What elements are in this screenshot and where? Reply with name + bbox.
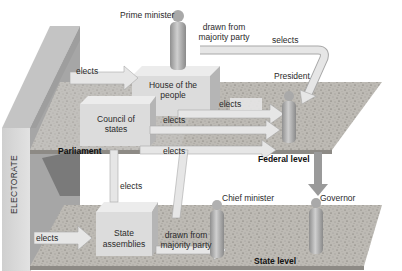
- council-of-states-line2: states: [84, 124, 148, 134]
- state-elects-council-label: elects: [120, 181, 142, 191]
- pm-drawn-from-label-line1: drawn from: [194, 22, 254, 32]
- state-level-label: State level: [254, 256, 296, 266]
- parliament-label: Parliament: [58, 146, 101, 156]
- prime-minister-label: Prime minister: [120, 10, 174, 20]
- cm-drawn-from-label-line1: drawn from: [156, 230, 216, 240]
- president-label: President: [274, 71, 310, 81]
- selects-label: selects: [272, 35, 298, 45]
- parliament-elects-president-label: elects: [163, 146, 185, 156]
- house-elects-president-label: elects: [219, 99, 241, 109]
- chief-minister-label: Chief minister: [222, 193, 274, 203]
- electorate-label: ELECTORATE: [9, 200, 109, 214]
- arrow-state-to-council: [110, 150, 118, 202]
- state-assemblies-line1: State: [96, 228, 152, 238]
- federal-level-label: Federal level: [258, 154, 310, 164]
- governor-label: Governor: [320, 193, 355, 203]
- electorate-elects-house-label: elects: [76, 66, 98, 76]
- council-of-states-line1: Council of: [84, 114, 148, 124]
- house-of-the-people-line1: House of the: [138, 80, 208, 90]
- house-of-the-people-line2: people: [138, 90, 208, 100]
- pm-drawn-from-label-line2: majority party: [194, 32, 254, 42]
- state-assemblies-line2: assemblies: [96, 239, 152, 249]
- cm-drawn-from-label-line2: majority party: [156, 240, 216, 250]
- council-elects-president-label: elects: [163, 115, 185, 125]
- electorate-elects-state-label: elects: [36, 233, 58, 243]
- arrow-president-to-governor: [308, 152, 328, 196]
